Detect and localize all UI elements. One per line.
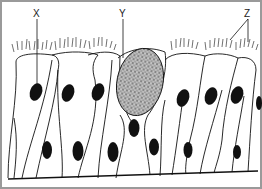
label-z: Z [244, 8, 250, 19]
label-y: Y [119, 8, 126, 19]
epithelium-diagram: X Y Z [0, 0, 262, 189]
label-x: X [33, 8, 40, 19]
basement-membrane [8, 171, 258, 179]
